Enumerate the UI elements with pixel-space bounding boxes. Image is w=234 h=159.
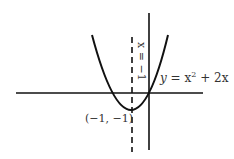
equation-label: y = x2 + 2x xyxy=(159,70,229,85)
parabola-curve xyxy=(92,35,168,110)
vertex-label: (−1, −1) xyxy=(85,112,133,125)
asymptote-label: x = −1 xyxy=(135,42,148,81)
parabola-diagram: x = −1 y = x2 + 2x (−1, −1) xyxy=(0,0,234,159)
